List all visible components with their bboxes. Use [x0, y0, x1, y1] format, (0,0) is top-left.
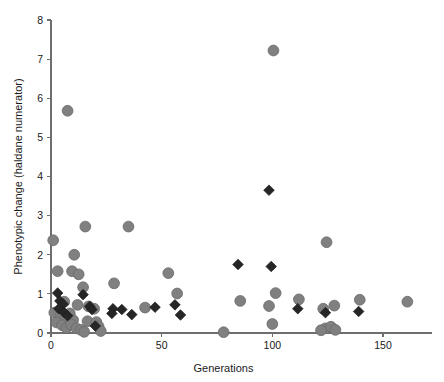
data-point-circle	[69, 249, 80, 260]
data-point-circle	[270, 288, 281, 299]
x-tick-label-150: 150	[374, 339, 392, 351]
data-point-circle	[109, 278, 120, 289]
y-tick-label-2: 2	[37, 249, 43, 261]
x-tick-label-100: 100	[264, 339, 282, 351]
data-point-circle	[80, 221, 91, 232]
data-point-diamond	[150, 302, 161, 313]
data-point-circle	[329, 300, 340, 311]
y-tick-label-7: 7	[37, 53, 43, 65]
data-point-circle	[163, 268, 174, 279]
data-point-circle	[268, 45, 279, 56]
data-point-diamond	[170, 300, 181, 311]
figure-container: 012345678050100150GenerationsPhenotypic …	[0, 0, 444, 382]
data-point-circle	[140, 302, 151, 313]
y-tick-label-8: 8	[37, 14, 43, 26]
data-point-diamond	[126, 309, 137, 320]
data-points-group	[48, 45, 413, 338]
data-point-diamond	[233, 259, 244, 270]
data-point-circle	[123, 221, 134, 232]
data-point-circle	[264, 301, 275, 312]
data-point-circle	[330, 324, 341, 335]
data-point-diamond	[117, 304, 128, 315]
data-point-circle	[321, 237, 332, 248]
x-tick-label-0: 0	[48, 339, 54, 351]
data-point-circle	[218, 327, 229, 338]
data-point-circle	[62, 105, 73, 116]
scatter-plot: 012345678050100150GenerationsPhenotypic …	[0, 0, 444, 382]
data-point-circle	[316, 325, 327, 336]
axes-group	[47, 20, 432, 337]
data-point-diamond	[353, 306, 364, 317]
data-point-diamond	[264, 185, 275, 196]
data-point-circle	[402, 296, 413, 307]
x-axis-title: Generations	[194, 362, 254, 374]
y-tick-label-0: 0	[37, 327, 43, 339]
data-point-circle	[235, 296, 246, 307]
y-tick-label-5: 5	[37, 131, 43, 143]
data-point-circle	[79, 326, 90, 337]
data-point-circle	[52, 266, 63, 277]
y-tick-label-1: 1	[37, 288, 43, 300]
y-tick-label-3: 3	[37, 209, 43, 221]
data-point-circle	[73, 269, 84, 280]
y-tick-label-4: 4	[37, 170, 43, 182]
data-point-circle	[293, 294, 304, 305]
y-axis-title: Phenotypic change (haldane numerator)	[12, 78, 24, 274]
data-point-circle	[172, 288, 183, 299]
x-tick-label-50: 50	[156, 339, 168, 351]
data-point-circle	[354, 294, 365, 305]
data-point-diamond	[292, 303, 303, 314]
data-point-circle	[48, 235, 59, 246]
y-tick-label-6: 6	[37, 92, 43, 104]
data-point-circle	[72, 299, 83, 310]
data-point-diamond	[266, 261, 277, 272]
data-point-diamond	[175, 310, 186, 321]
data-point-circle	[267, 319, 278, 330]
